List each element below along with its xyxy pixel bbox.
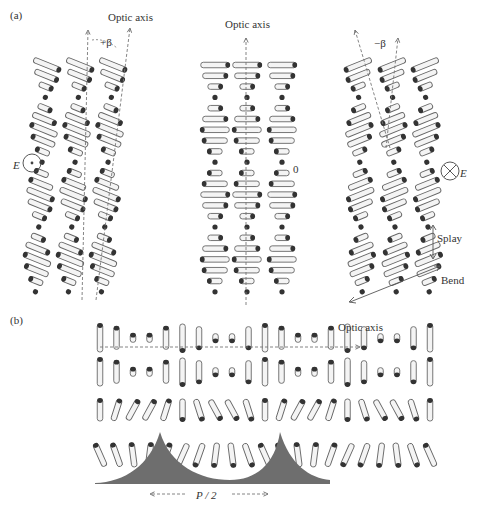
molecule-rod: [328, 360, 334, 384]
molecule-rod: [262, 357, 268, 386]
molecule-rod: [279, 326, 285, 350]
molecule-rod: [70, 103, 86, 114]
molecule-rod: [419, 211, 435, 222]
molecule-rod: [275, 235, 290, 241]
molecule-rod: [270, 116, 296, 122]
molecule-rod: [394, 368, 400, 378]
left-field-label: E: [13, 160, 20, 171]
molecule-rod: [427, 357, 433, 386]
molecule-rod: [65, 211, 81, 222]
molecule-rod: [417, 81, 433, 92]
molecule-rod: [196, 361, 202, 385]
molecule-rod: [64, 233, 80, 244]
molecule-rod: [234, 138, 260, 144]
molecule-rod: [207, 149, 222, 155]
molecule-rod: [94, 275, 110, 286]
field-dot: [31, 162, 34, 165]
molecule-rod: [275, 105, 290, 111]
molecule-rod: [357, 443, 371, 468]
molecule-rod: [417, 103, 433, 114]
molecule-rod: [340, 443, 355, 468]
molecule-rod: [234, 181, 260, 187]
molecule-rod: [235, 116, 261, 122]
molecule-rod: [240, 84, 255, 90]
molecule-rod: [354, 275, 370, 286]
molecule-rod: [352, 167, 368, 178]
molecule-rod: [114, 326, 120, 350]
molecule-rod: [233, 62, 262, 68]
molecule-rod: [229, 368, 235, 378]
bend-label: Bend: [441, 275, 464, 286]
molecule-rod: [32, 211, 48, 222]
molecule-rod: [275, 398, 287, 422]
molecule-rod: [232, 127, 261, 133]
middle-angle-label: 0: [293, 164, 299, 175]
molecule-rod: [390, 159, 397, 166]
molecule-rod: [267, 127, 296, 133]
molecule-rod: [192, 443, 206, 468]
molecule-rod: [110, 442, 124, 467]
molecule-rod: [353, 233, 369, 244]
molecule-rod: [72, 159, 79, 166]
liquid-crystal-diagram: [0, 0, 480, 511]
molecule-rod: [427, 398, 433, 421]
molecule-rod: [279, 160, 284, 165]
molecule-rod: [350, 81, 366, 92]
molecule-rod: [279, 289, 284, 294]
molecule-rod: [208, 399, 224, 422]
molecule-rod: [295, 333, 301, 343]
middle-optic-axis-arrowhead: [244, 38, 248, 43]
molecule-rod: [130, 333, 136, 343]
molecule-rod: [38, 81, 54, 92]
molecule-rod: [358, 399, 370, 423]
molecule-rod: [419, 146, 435, 157]
molecule-rod: [125, 398, 141, 421]
molecule-rod: [200, 127, 229, 133]
molecule-rod: [233, 192, 262, 198]
molecule-rod: [361, 361, 367, 385]
molecule-rod: [202, 267, 228, 273]
molecule-rod: [345, 358, 351, 387]
molecule-rod: [421, 275, 437, 286]
molecule-rod: [393, 288, 400, 295]
molecule-rod: [232, 257, 261, 263]
molecule-rod: [394, 334, 400, 344]
molecule-rod: [180, 358, 186, 387]
molecule-rod: [203, 73, 229, 79]
molecule-rod: [207, 170, 222, 176]
molecule-rod: [244, 95, 249, 100]
molecule-rod: [422, 442, 437, 467]
molecule-rod: [235, 203, 261, 209]
molecule-rod: [92, 442, 107, 467]
molecule-rod: [269, 181, 295, 187]
molecule-rod: [201, 62, 230, 68]
molecule-rod: [104, 81, 120, 92]
molecule-rod: [180, 399, 186, 422]
molecule-rod: [68, 224, 75, 231]
molecule-rod: [35, 224, 42, 231]
molecule-rod: [355, 94, 362, 101]
molecule-rod: [108, 94, 115, 101]
molecule-rod: [61, 275, 77, 286]
molecule-rod: [202, 181, 228, 187]
molecule-rod: [244, 224, 249, 229]
molecule-rod: [269, 138, 295, 144]
molecule-rod: [407, 399, 419, 423]
molecule-rod: [407, 443, 421, 468]
molecule-rod: [224, 399, 240, 422]
molecule-rod: [240, 213, 255, 219]
molecule-rod: [279, 224, 284, 229]
molecule-rod: [208, 235, 223, 241]
molecule-rod: [203, 246, 229, 252]
molecule-rod: [307, 398, 323, 421]
right-optic-axis-arrowhead: [354, 30, 358, 35]
panel-b-optic-axis-label: Optic axis: [338, 322, 383, 333]
molecule-rod: [213, 334, 219, 344]
molecule-rod: [386, 167, 402, 178]
molecule-rod: [427, 323, 433, 352]
molecule-rod: [228, 443, 237, 468]
left-angle-label: +β: [100, 37, 112, 48]
molecule-rod: [208, 105, 223, 111]
molecule-rod: [358, 224, 365, 231]
molecule-rod: [212, 289, 217, 294]
